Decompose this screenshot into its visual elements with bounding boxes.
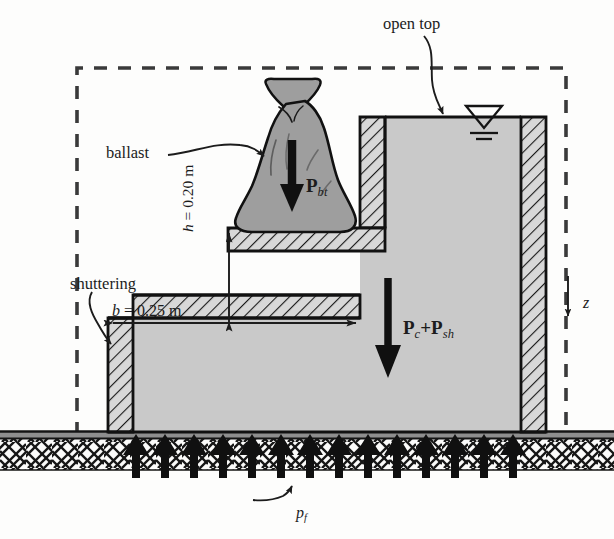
dimension-h-symbol: h <box>179 224 196 232</box>
force-psh-symbol: P <box>431 317 443 338</box>
diagram-svg <box>0 0 614 539</box>
pressure-pf-subscript: f <box>304 512 307 523</box>
force-pc-symbol: P <box>403 317 415 338</box>
force-pbt-symbol: P <box>306 175 318 196</box>
dimension-label-b: b = 0.25 m <box>112 303 181 319</box>
figure-canvas: open top ballast shuttering b = 0.25 m h… <box>0 0 614 539</box>
force-plus-sign: + <box>420 317 431 338</box>
force-label-ballast: Pbt <box>306 176 328 198</box>
dimension-b-symbol: b <box>112 302 120 319</box>
dimension-h-value: = 0.20 m <box>179 165 196 221</box>
force-psh-subscript: sh <box>443 327 454 341</box>
label-ballast: ballast <box>106 145 149 162</box>
pressure-label-pf: pf <box>296 505 307 524</box>
dimension-label-h: h = 0.20 m <box>180 165 196 232</box>
force-pbt-subscript: bt <box>318 185 328 199</box>
label-shuttering: shuttering <box>70 276 136 293</box>
label-open-top: open top <box>383 16 440 33</box>
axis-label-z: z <box>583 295 589 311</box>
pressure-pf-symbol: p <box>296 504 304 521</box>
dimension-b-value: = 0.25 m <box>124 302 181 319</box>
force-label-concrete: Pc+Psh <box>403 318 454 340</box>
